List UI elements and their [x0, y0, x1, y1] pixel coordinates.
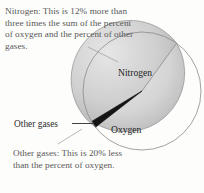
pie-chart-figure: Nitrogen: This is 12% more than three ti… — [0, 0, 204, 193]
other-gases-annotation-text: Other gases: This is 20% less than the p… — [13, 148, 133, 171]
pie-slice-label-oxygen: Oxygen — [111, 124, 141, 135]
pie-slice-label-nitrogen: Nitrogen — [118, 67, 152, 78]
leader-line-other-gases-note — [58, 129, 82, 144]
other-gases-callout-label: Other gases — [14, 119, 58, 129]
nitrogen-annotation-text: Nitrogen: This is 12% more than three ti… — [5, 6, 137, 52]
